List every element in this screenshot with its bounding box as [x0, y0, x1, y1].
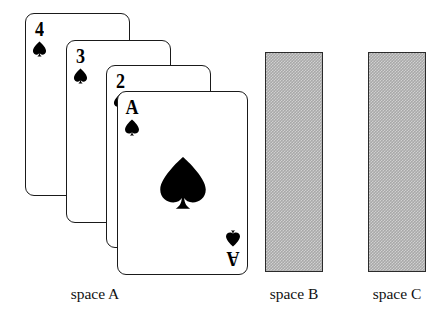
card-game-scene: 4 3 2: [0, 0, 447, 328]
card-corner-index-top-left: 4: [32, 19, 47, 57]
spade-icon: [225, 230, 241, 247]
card-rank-label: 4: [35, 19, 44, 40]
spade-icon: [32, 41, 47, 57]
empty-slot-space-b[interactable]: [265, 52, 323, 272]
space-c-label: space C: [373, 285, 422, 303]
card-rank-label: 3: [76, 46, 85, 67]
space-a-label: space A: [71, 285, 120, 303]
card-rank-label: 2: [116, 71, 125, 92]
spade-icon: [73, 68, 88, 84]
empty-slot-space-c[interactable]: [368, 52, 426, 272]
spade-icon-center: [157, 155, 209, 211]
card-ace-of-spades[interactable]: A A: [117, 91, 248, 275]
card-corner-index-top-left: 3: [73, 46, 88, 84]
card-rank-label: A: [126, 97, 139, 118]
card-corner-index-top-left: A: [124, 97, 140, 136]
card-rank-label: A: [227, 248, 240, 269]
spade-icon: [124, 119, 140, 136]
card-corner-index-bottom-right: A: [225, 230, 241, 269]
space-b-label: space B: [270, 285, 319, 303]
